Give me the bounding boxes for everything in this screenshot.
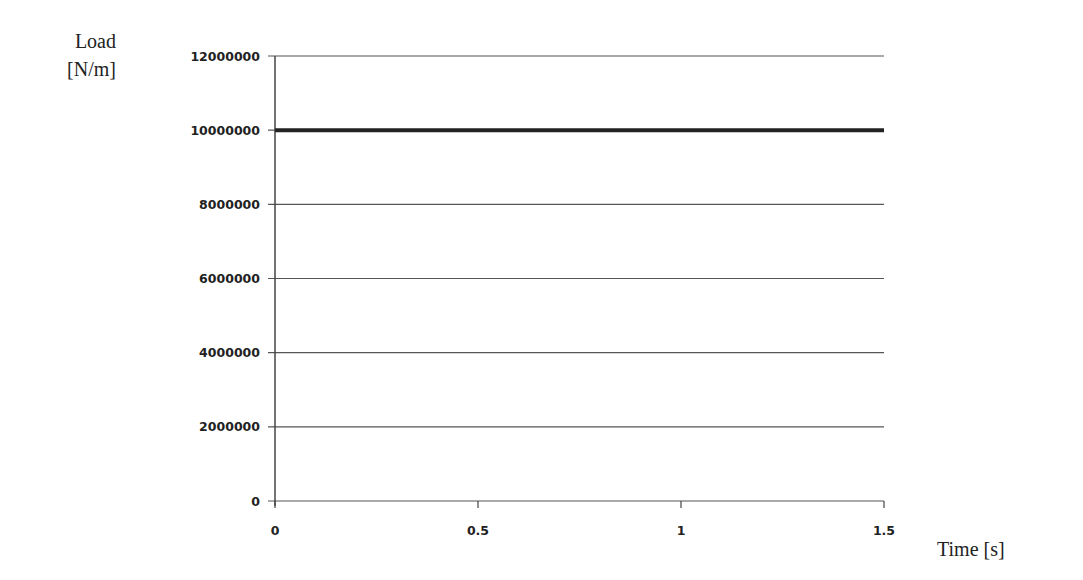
x-axis-ticks: 00.511.5: [271, 501, 895, 538]
y-tick-label: 8000000: [199, 197, 260, 212]
x-tick-label: 0: [271, 523, 280, 538]
y-tick-label: 0: [251, 494, 260, 509]
y-axis-title-line1: Load: [75, 30, 116, 52]
line-chart: Load [N/m] 02000000400000060000008000000…: [0, 0, 1083, 580]
y-tick-label: 10000000: [190, 123, 260, 138]
y-tick-label: 2000000: [199, 419, 260, 434]
x-tick-label: 0.5: [467, 523, 489, 538]
y-tick-label: 6000000: [199, 271, 260, 286]
y-tick-label: 4000000: [199, 345, 260, 360]
x-axis-title: Time [s]: [937, 538, 1005, 560]
y-axis-title-line2: [N/m]: [67, 58, 116, 80]
y-tick-label: 12000000: [190, 49, 260, 64]
x-tick-label: 1.5: [873, 523, 895, 538]
gridlines: [268, 56, 884, 501]
x-tick-label: 1: [677, 523, 686, 538]
y-axis-ticks: 0200000040000006000000800000010000000120…: [190, 49, 260, 509]
y-axis-title: Load [N/m]: [67, 30, 116, 80]
